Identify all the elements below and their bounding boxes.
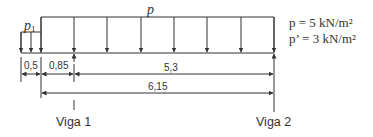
dim-label-0.85: 0,85	[49, 60, 69, 71]
load-diagram: p p1 p = 5 kN/m² p’ = 3 kN/m² 0,5 0,85 5…	[0, 0, 373, 137]
legend-p-prime: p’ = 3 kN/m²	[289, 31, 356, 46]
p1-load-label: p1	[23, 18, 36, 34]
legend-p: p = 5 kN/m²	[289, 15, 353, 30]
load-outline	[21, 17, 274, 53]
dim-label-5.3: 5,3	[164, 62, 178, 73]
p-load-block	[41, 17, 274, 53]
load-arrows	[21, 17, 274, 52]
dim-label-6.15: 6,15	[148, 81, 168, 92]
viga2-label: Viga 2	[256, 115, 291, 129]
viga1-label: Viga 1	[56, 115, 91, 129]
dim-label-0.5: 0,5	[24, 60, 38, 71]
p-load-label: p	[146, 2, 154, 17]
